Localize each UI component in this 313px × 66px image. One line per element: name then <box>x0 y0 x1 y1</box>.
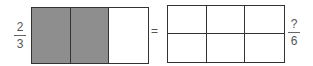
left-denominator: 3 <box>13 38 27 50</box>
right-fraction: ? 6 <box>287 18 301 47</box>
part-3 <box>245 6 284 34</box>
left-numerator: 2 <box>13 21 27 33</box>
shaded-part-1 <box>32 8 71 63</box>
fraction-bar <box>14 35 26 36</box>
part-4 <box>168 34 207 62</box>
part-5 <box>207 34 246 62</box>
unshaded-part-3 <box>109 8 148 63</box>
left-fraction: 2 3 <box>13 21 27 50</box>
right-numerator: ? <box>287 18 301 30</box>
equals-sign: = <box>151 24 158 38</box>
part-2 <box>207 6 246 34</box>
fraction-bar <box>288 32 300 33</box>
part-6 <box>245 34 284 62</box>
shaded-part-2 <box>71 8 110 63</box>
part-1 <box>168 6 207 34</box>
right-denominator: 6 <box>287 35 301 47</box>
left-fraction-model <box>31 7 149 64</box>
right-fraction-model <box>167 5 285 63</box>
